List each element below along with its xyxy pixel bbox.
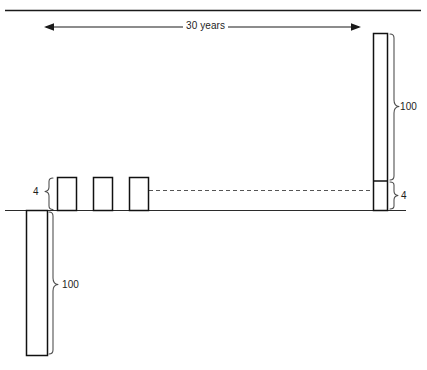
arrow-right-icon [351,23,361,30]
payment-bar-1 [58,178,77,211]
payment-group-label: 4 [33,187,39,197]
brace-right-100 [390,34,399,180]
initial-outflow-bar [27,211,48,356]
payment-bar-3 [130,178,149,211]
brace-right-4 [390,182,398,209]
cash-flow-diagram: 30 years 100 4 4 100 [0,0,427,370]
diagram-canvas [0,0,427,370]
brace-left-4 [45,178,53,210]
arrow-left-icon [44,23,54,30]
right-bar-lower-label: 4 [401,191,407,201]
final-inflow-bar [374,34,388,211]
span-label: 30 years [183,21,228,31]
brace-left-100 [49,212,58,354]
payment-bar-2 [94,178,113,211]
span-label-text: 30 years [183,20,228,31]
right-bar-upper-label: 100 [400,102,417,112]
initial-outflow-label: 100 [62,280,79,290]
